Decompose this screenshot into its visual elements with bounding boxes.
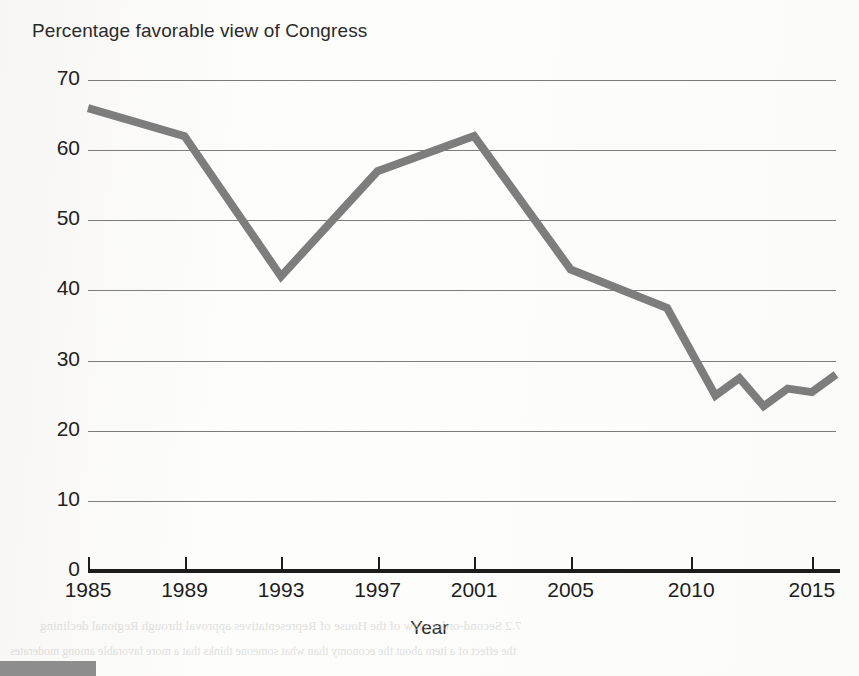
x-axis-tick-label: 2015: [789, 578, 836, 602]
series-polyline: [88, 108, 836, 406]
x-axis-line: [88, 569, 840, 573]
page-bottom-marker-bar: [0, 661, 96, 676]
plot-area: 706050403020100 198519891993199720012005…: [0, 0, 859, 676]
x-axis-tick-label: 1985: [65, 578, 112, 602]
x-axis-tick-label: 1997: [354, 578, 401, 602]
x-axis-tick-label: 1989: [161, 578, 208, 602]
x-axis-tick-mark: [474, 557, 476, 570]
x-axis-tick-mark: [185, 557, 187, 570]
x-axis-tick-mark: [571, 557, 573, 570]
x-axis-tick-mark: [281, 557, 283, 570]
x-axis-tick-label: 2001: [451, 578, 498, 602]
x-axis-tick-label: 2005: [547, 578, 594, 602]
x-axis-tick-mark: [691, 557, 693, 570]
x-axis-tick-label: 1993: [258, 578, 305, 602]
x-axis-title: Year: [0, 617, 859, 639]
x-axis-tick-mark: [378, 557, 380, 570]
series-line-chart: [0, 0, 859, 676]
x-axis-tick-mark: [88, 557, 90, 570]
x-axis-tick-mark: [812, 557, 814, 570]
x-axis-tick-label: 2010: [668, 578, 715, 602]
chart-page: Percentage favorable view of Congress 70…: [0, 0, 859, 676]
